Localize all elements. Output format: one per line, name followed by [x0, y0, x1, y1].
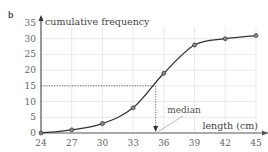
x-tick-label: 42 [220, 138, 231, 148]
y-tick-label: 30 [25, 34, 37, 44]
y-tick-label: 20 [25, 65, 37, 75]
data-point [39, 131, 43, 135]
x-tick-label: 45 [250, 138, 262, 148]
x-tick-label: 33 [127, 138, 139, 148]
x-tick-label: 27 [66, 138, 78, 148]
data-point [131, 106, 135, 110]
median-arrow-icon [153, 126, 158, 132]
y-tick-label: 35 [25, 18, 37, 28]
data-point [193, 43, 197, 47]
x-tick-label: 39 [189, 138, 201, 148]
x-tick-label: 36 [158, 138, 170, 148]
data-point [254, 34, 258, 38]
y-tick-label: 15 [25, 81, 37, 91]
x-tick-label: 24 [35, 138, 47, 148]
median-guides: median [41, 86, 201, 132]
x-axis-label: length (cm) [202, 120, 258, 131]
y-axis-label: cumulative frequency [45, 16, 150, 27]
y-tick-label: 5 [30, 112, 36, 122]
data-point [223, 37, 227, 41]
y-axis-arrow-icon [39, 15, 44, 21]
axis-labels: cumulative frequencylength (cm) [45, 16, 258, 131]
y-tick-label: 10 [25, 97, 37, 107]
median-label: median [167, 105, 201, 115]
y-tick-label: 0 [30, 128, 36, 138]
data-point [100, 122, 104, 126]
x-axis-arrow-icon [262, 131, 268, 136]
data-point [70, 128, 74, 132]
cumulative-frequency-chart: 242730333639424505101520253035 median cu… [0, 0, 268, 152]
data-point [162, 71, 166, 75]
cumulative-frequency-curve [41, 36, 256, 133]
y-tick-label: 25 [25, 49, 37, 59]
grid [41, 27, 256, 133]
x-tick-label: 30 [97, 138, 109, 148]
median-pointer-line [158, 116, 183, 132]
